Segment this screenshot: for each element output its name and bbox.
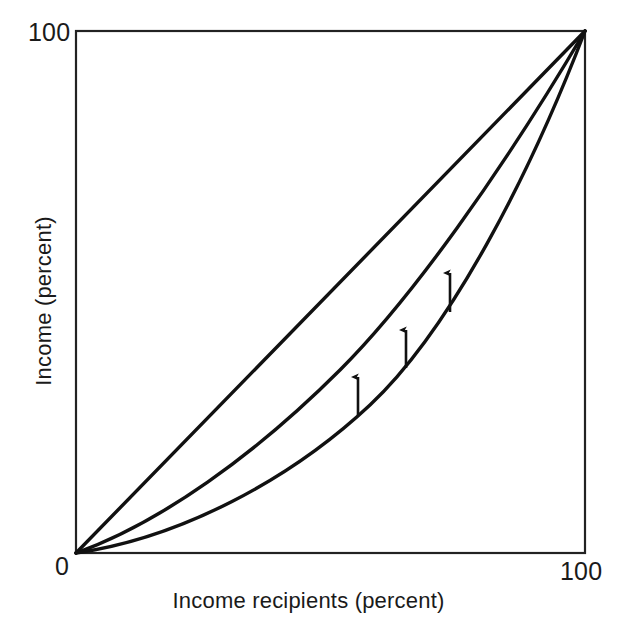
annotation-arrows xyxy=(358,273,450,415)
y-axis-tick-label-0: 0 xyxy=(55,552,69,581)
line-of-equality-path xyxy=(76,31,585,553)
x-axis-tick-label-100: 100 xyxy=(560,557,602,586)
y-axis-tick-label-100: 100 xyxy=(28,18,70,47)
plot-canvas xyxy=(0,0,617,626)
lorenz-curve-figure: 100 0 100 Income recipients (percent) In… xyxy=(0,0,617,626)
x-axis-title: Income recipients (percent) xyxy=(0,588,617,614)
y-axis-title: Income (percent) xyxy=(31,151,57,451)
